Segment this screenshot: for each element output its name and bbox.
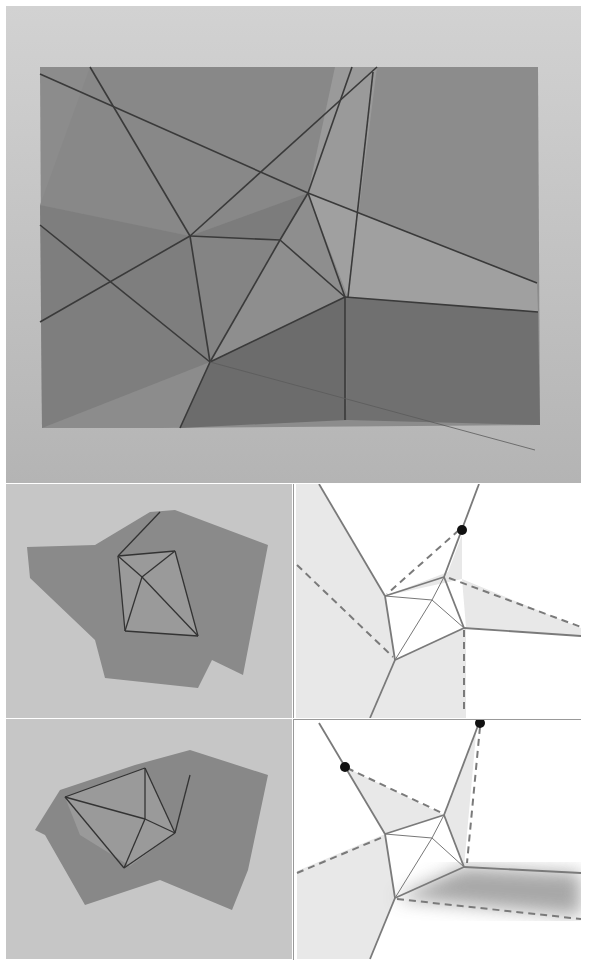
top-photo-panel (6, 6, 581, 483)
folded-state-2-photo (6, 719, 292, 959)
marker-dot-1 (340, 762, 350, 772)
crease-pattern-photo (6, 6, 581, 483)
row2-diagram-panel (293, 719, 581, 960)
crease-diagram-state-1 (294, 484, 581, 718)
crease-diagram-state-2 (294, 720, 581, 960)
row2-photo-panel (6, 719, 292, 959)
row1-diagram-panel (293, 484, 581, 718)
marker-dot (457, 525, 467, 535)
row1-photo-panel (6, 484, 292, 718)
folded-state-1-photo (6, 484, 292, 718)
